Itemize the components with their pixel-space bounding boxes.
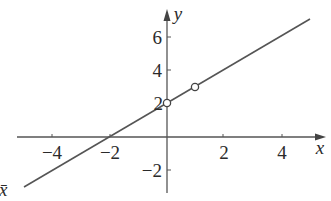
corner-mark: x̄	[0, 179, 8, 200]
y-axis-label: y	[172, 3, 183, 24]
graph: −4 −2 2 4 6 4 2 −2 x y x̄	[0, 0, 331, 201]
y-tick-label: 6	[153, 27, 163, 48]
x-axis-label: x	[315, 137, 325, 158]
open-point-1-3	[191, 83, 198, 90]
x-tick-label: −4	[42, 142, 63, 163]
x-tick-label: 4	[277, 142, 287, 163]
y-tick-label: −2	[142, 160, 162, 181]
y-tick-label: 4	[153, 60, 163, 81]
open-point-0-2	[163, 99, 170, 106]
y-axis-arrow-icon	[164, 9, 171, 21]
x-tick-label: 2	[219, 142, 229, 163]
y-tick-label: 2	[154, 93, 164, 114]
x-tick-label: −2	[100, 142, 120, 163]
